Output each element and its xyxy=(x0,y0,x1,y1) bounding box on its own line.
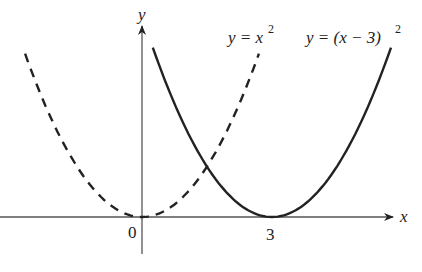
tick-label-3: 3 xyxy=(266,225,275,244)
curve-label-exponent: 2 xyxy=(395,22,401,36)
curve-label-text: y = (x − 3) xyxy=(304,28,381,47)
label-y-equals-x-squared: y = x 2 xyxy=(226,22,274,47)
y-axis-label: y xyxy=(136,5,146,24)
curve-label-text: y = x xyxy=(226,28,264,47)
curve-label-exponent: 2 xyxy=(268,22,274,36)
graph-canvas: y x 0 3 y = x 2 y = (x − 3) 2 xyxy=(0,0,422,272)
tick-label-0: 0 xyxy=(128,223,137,242)
label-y-equals-x-minus-3-squared: y = (x − 3) 2 xyxy=(304,22,401,47)
x-axis-label: x xyxy=(399,207,408,226)
